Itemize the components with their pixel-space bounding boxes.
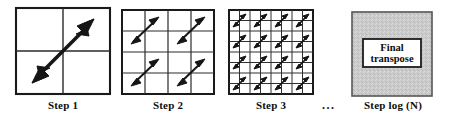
panel-step3 [227,8,315,96]
caption-step2: Step 2 [120,99,216,111]
step3-diagram [227,8,315,96]
caption-step3: Step 3 [227,99,315,111]
final-transpose-line-1: Final [380,42,403,53]
transpose-steps-figure: Final transpose Step 1 Step 2 Step 3 ...… [0,0,453,118]
panel-step4: Final transpose [350,10,434,98]
step4-diagram: Final transpose [350,10,434,98]
step1-diagram [14,6,112,96]
final-transpose-line-2: transpose [370,53,414,64]
panel-step1 [14,6,112,96]
step2-diagram [120,8,216,96]
caption-step1: Step 1 [14,99,112,111]
ellipsis-separator: ... [322,98,336,113]
panel-step2 [120,8,216,96]
caption-step4: Step log (N) [348,99,438,111]
